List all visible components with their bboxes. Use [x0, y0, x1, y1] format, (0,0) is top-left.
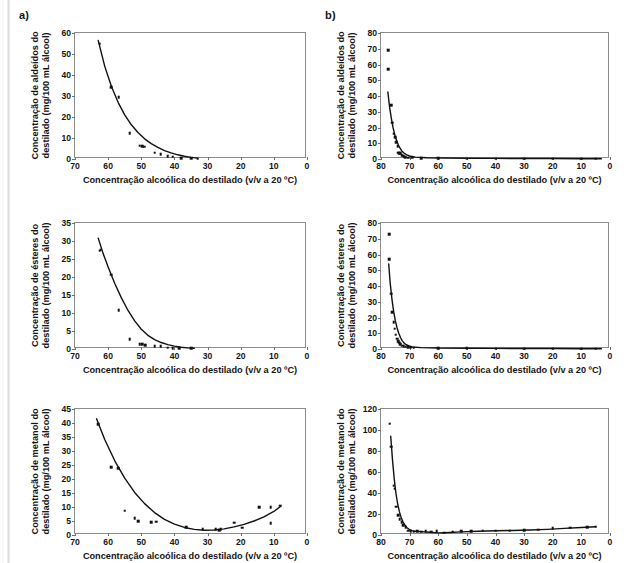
x-axis-title-a3: Concentração alcoólica do destilado (v/v…: [46, 551, 334, 561]
data-point: [171, 347, 174, 350]
data-point: [594, 158, 597, 161]
y-axis-title-a1: Concentração de aldeídos dodestilado (mg…: [30, 20, 53, 170]
data-point: [481, 530, 484, 533]
x-tick-mark-a3-0: [307, 533, 308, 536]
x-tick-label-b2-20: 20: [548, 351, 558, 361]
data-point: [393, 488, 396, 491]
data-point: [97, 423, 100, 426]
data-point: [443, 531, 446, 534]
x-tick-label-a3-30: 30: [203, 537, 213, 547]
x-tick-label-a2-60: 60: [103, 351, 113, 361]
data-point: [470, 530, 473, 533]
data-point: [233, 521, 236, 524]
x-axis-title-b3: Concentração alcoólica do destilado (v/v…: [352, 551, 632, 561]
x-tick-label-b2-60: 60: [433, 351, 443, 361]
fit-curve-a3: [75, 409, 307, 535]
x-tick-label-a3-50: 50: [137, 537, 147, 547]
panel-label-a: a): [19, 9, 29, 21]
x-tick-label-a3-60: 60: [103, 537, 113, 547]
data-point: [196, 157, 199, 160]
panel-label-b: b): [325, 9, 336, 21]
data-point: [523, 529, 526, 532]
x-tick-label-b2-50: 50: [462, 351, 472, 361]
plot-area-a1: 0102030405060706050403020100: [74, 32, 306, 158]
data-point: [241, 526, 244, 529]
x-axis-title-b2: Concentração alcoólica do destilado (v/v…: [352, 365, 632, 375]
y-axis-title-b3: Concentração de metanol dodestilado (mg/…: [336, 396, 359, 546]
fit-curve-b3: [381, 409, 610, 535]
data-point: [411, 157, 414, 160]
data-point: [460, 530, 463, 533]
data-point: [437, 347, 440, 350]
x-tick-mark-a2-0: [307, 347, 308, 350]
data-point: [388, 233, 391, 236]
x-tick-label-a1-30: 30: [203, 161, 213, 171]
data-point: [412, 346, 415, 349]
data-point: [407, 156, 410, 159]
data-point: [404, 526, 407, 529]
data-point: [394, 136, 397, 139]
data-point: [155, 521, 158, 524]
data-point: [391, 121, 394, 124]
x-tick-label-a3-10: 10: [269, 537, 279, 547]
data-point: [143, 145, 146, 148]
data-point: [390, 104, 393, 107]
data-point: [494, 157, 497, 160]
x-tick-label-a2-50: 50: [137, 351, 147, 361]
x-tick-label-b2-70: 70: [405, 351, 415, 361]
x-tick-label-a1-60: 60: [103, 161, 113, 171]
data-point: [190, 347, 193, 350]
x-tick-label-b3-40: 40: [491, 537, 501, 547]
x-tick-label-b1-20: 20: [548, 161, 558, 171]
data-point: [388, 258, 391, 261]
x-tick-mark-b2-0: [610, 347, 611, 350]
data-point: [594, 525, 597, 528]
data-point: [220, 528, 223, 531]
data-point: [390, 446, 393, 449]
data-point: [167, 346, 170, 349]
x-tick-label-a1-0: 0: [305, 161, 310, 171]
data-point: [387, 68, 390, 71]
y-axis-title-line1-a3: Concentração de metanol do: [30, 396, 41, 546]
x-tick-label-b3-60: 60: [433, 537, 443, 547]
y-axis-title-line2-b1: destilado (mg/100 mL álcool): [347, 20, 358, 170]
x-tick-mark-a1-0: [307, 157, 308, 160]
x-tick-label-b2-40: 40: [491, 351, 501, 361]
x-tick-label-a1-20: 20: [236, 161, 246, 171]
data-point: [393, 327, 396, 330]
x-tick-label-b3-10: 10: [577, 537, 587, 547]
data-point: [420, 157, 423, 160]
x-tick-label-a3-40: 40: [170, 537, 180, 547]
x-tick-label-b2-0: 0: [608, 351, 613, 361]
x-tick-label-b3-0: 0: [608, 537, 613, 547]
x-tick-label-a3-20: 20: [236, 537, 246, 547]
data-point: [387, 49, 390, 52]
x-tick-mark-b1-0: [610, 157, 611, 160]
data-point: [117, 467, 120, 470]
data-point: [392, 321, 395, 324]
x-tick-label-a1-50: 50: [137, 161, 147, 171]
plot-area-a2: 05101520253035706050403020100: [74, 222, 306, 348]
x-tick-mark-b3-0: [610, 533, 611, 536]
y-axis-title-a3: Concentração de metanol dodestilado (mg/…: [30, 396, 53, 546]
x-tick-label-b1-0: 0: [608, 161, 613, 171]
x-tick-label-b3-30: 30: [519, 537, 529, 547]
data-point: [190, 157, 193, 160]
y-axis-title-line2-a1: destilado (mg/100 mL álcool): [41, 20, 52, 170]
data-point: [395, 141, 398, 144]
data-point: [171, 156, 174, 159]
data-point: [569, 526, 572, 529]
scan-edge-artifact: [7, 0, 10, 563]
scan-edge-artifact-outer: [2, 0, 4, 563]
data-point: [537, 528, 540, 531]
x-axis-title-a2: Concentração alcoólica do destilado (v/v…: [46, 365, 334, 375]
x-tick-label-b3-80: 80: [376, 537, 386, 547]
data-point: [436, 530, 439, 533]
data-point: [551, 157, 554, 160]
data-point: [153, 345, 156, 348]
x-tick-label-a1-10: 10: [269, 161, 279, 171]
data-point: [128, 338, 131, 341]
data-point: [466, 157, 469, 160]
data-point: [110, 86, 113, 89]
data-point: [396, 145, 399, 148]
